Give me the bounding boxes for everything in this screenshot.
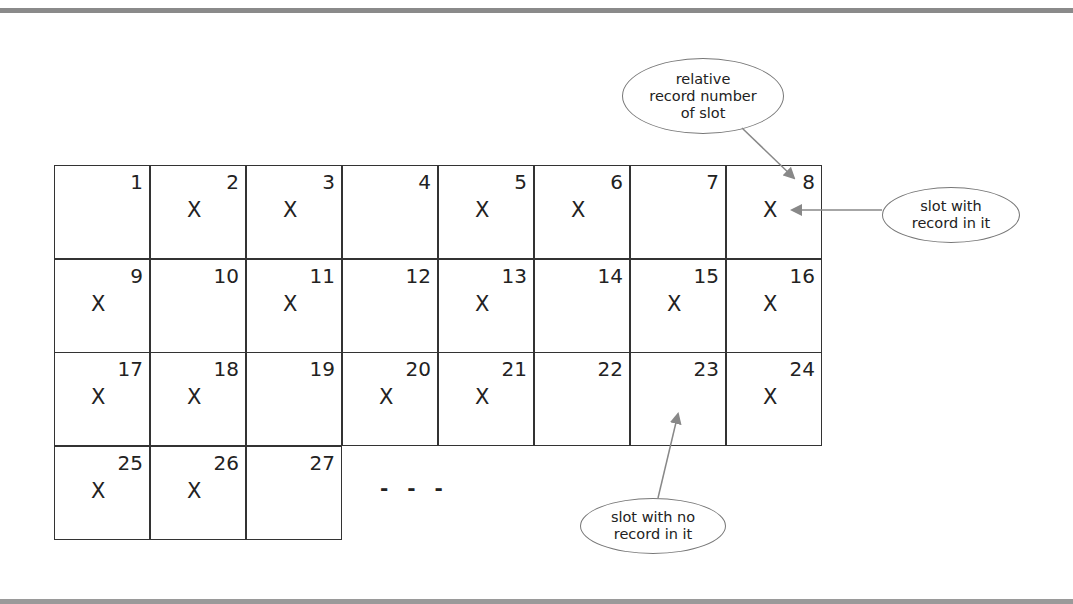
continuation-ellipsis: - - - bbox=[380, 476, 449, 500]
record-mark: X bbox=[187, 198, 201, 222]
slot-cell: 25X bbox=[54, 446, 150, 540]
slot-cell: 27 bbox=[246, 446, 342, 540]
slot-number: 8 bbox=[802, 170, 815, 194]
record-mark: X bbox=[187, 385, 201, 409]
slot-cell: 21X bbox=[438, 352, 534, 446]
slot-cell: 13X bbox=[438, 259, 534, 353]
slot-number: 11 bbox=[310, 264, 335, 288]
record-mark: X bbox=[283, 198, 297, 222]
slot-cell: 15X bbox=[630, 259, 726, 353]
slot-cell: 5X bbox=[438, 165, 534, 259]
slot-cell: 4 bbox=[342, 165, 438, 259]
slot-number: 2 bbox=[226, 170, 239, 194]
slot-cell: 10 bbox=[150, 259, 246, 353]
slot-cell: 3X bbox=[246, 165, 342, 259]
slot-number: 10 bbox=[214, 264, 239, 288]
callout-slot-with-record-text: slot with record in it bbox=[912, 198, 990, 232]
slot-cell: 11X bbox=[246, 259, 342, 353]
slot-number: 21 bbox=[502, 357, 527, 381]
slot-cell: 19 bbox=[246, 352, 342, 446]
slot-number: 12 bbox=[406, 264, 431, 288]
record-mark: X bbox=[187, 479, 201, 503]
record-mark: X bbox=[91, 385, 105, 409]
record-mark: X bbox=[763, 385, 777, 409]
callout-relative-record-number-text: relative record number of slot bbox=[649, 71, 757, 122]
slot-number: 16 bbox=[790, 264, 815, 288]
slot-cell: 7 bbox=[630, 165, 726, 259]
slot-cell: 6X bbox=[534, 165, 630, 259]
slot-number: 13 bbox=[502, 264, 527, 288]
slot-number: 27 bbox=[310, 451, 335, 475]
callout-relative-record-number: relative record number of slot bbox=[622, 58, 784, 134]
slot-cell: 26X bbox=[150, 446, 246, 540]
record-mark: X bbox=[763, 292, 777, 316]
slot-cell: 16X bbox=[726, 259, 822, 353]
slot-cell: 9X bbox=[54, 259, 150, 353]
slot-number: 24 bbox=[790, 357, 815, 381]
record-mark: X bbox=[379, 385, 393, 409]
bottom-rule bbox=[0, 599, 1073, 604]
record-mark: X bbox=[763, 198, 777, 222]
record-mark: X bbox=[475, 292, 489, 316]
record-mark: X bbox=[667, 292, 681, 316]
slot-number: 19 bbox=[310, 357, 335, 381]
slot-number: 14 bbox=[598, 264, 623, 288]
slot-number: 15 bbox=[694, 264, 719, 288]
slot-number: 4 bbox=[418, 170, 431, 194]
slot-number: 20 bbox=[406, 357, 431, 381]
top-rule bbox=[0, 8, 1073, 13]
record-mark: X bbox=[91, 292, 105, 316]
record-mark: X bbox=[283, 292, 297, 316]
slot-number: 22 bbox=[598, 357, 623, 381]
slot-number: 3 bbox=[322, 170, 335, 194]
slot-cell: 14 bbox=[534, 259, 630, 353]
slot-number: 6 bbox=[610, 170, 623, 194]
slot-number: 23 bbox=[694, 357, 719, 381]
slot-cell: 22 bbox=[534, 352, 630, 446]
record-mark: X bbox=[571, 198, 585, 222]
slot-number: 25 bbox=[118, 451, 143, 475]
slot-cell: 2X bbox=[150, 165, 246, 259]
callout-slot-no-record: slot with no record in it bbox=[580, 498, 726, 554]
slot-number: 17 bbox=[118, 357, 143, 381]
slot-cell: 1 bbox=[54, 165, 150, 259]
slot-number: 7 bbox=[706, 170, 719, 194]
slot-cell: 23 bbox=[630, 352, 726, 446]
slot-number: 5 bbox=[514, 170, 527, 194]
slot-number: 26 bbox=[214, 451, 239, 475]
callout-slot-no-record-text: slot with no record in it bbox=[611, 509, 695, 543]
slot-cell: 18X bbox=[150, 352, 246, 446]
slot-cell: 20X bbox=[342, 352, 438, 446]
slot-number: 18 bbox=[214, 357, 239, 381]
record-mark: X bbox=[475, 385, 489, 409]
slot-number: 9 bbox=[130, 264, 143, 288]
callout-slot-with-record: slot with record in it bbox=[882, 187, 1020, 243]
slot-cell: 17X bbox=[54, 352, 150, 446]
record-mark: X bbox=[91, 479, 105, 503]
slot-cell: 12 bbox=[342, 259, 438, 353]
record-mark: X bbox=[475, 198, 489, 222]
slot-cell: 8X bbox=[726, 165, 822, 259]
slot-cell: 24X bbox=[726, 352, 822, 446]
slot-number: 1 bbox=[130, 170, 143, 194]
